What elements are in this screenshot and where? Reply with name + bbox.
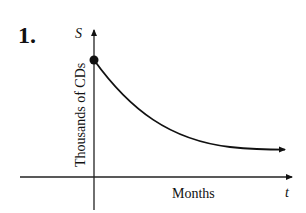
decay-chart: S Thousands of CDs Months t — [0, 0, 306, 213]
x-axis-title: Months — [172, 186, 215, 201]
x-variable-label: t — [285, 185, 290, 200]
y-variable-label: S — [75, 26, 82, 41]
initial-point — [90, 56, 99, 65]
y-axis-title: Thousands of CDs — [73, 63, 88, 167]
decay-curve — [94, 60, 285, 150]
